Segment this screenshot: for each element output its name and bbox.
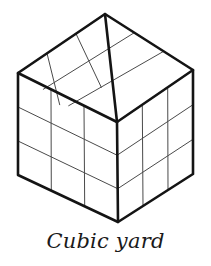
cube-drawing — [0, 0, 211, 266]
figure-caption: Cubic yard — [0, 228, 211, 254]
cubic-yard-figure: Cubic yard — [0, 0, 211, 266]
